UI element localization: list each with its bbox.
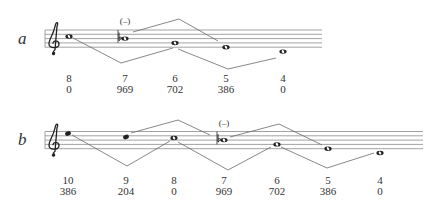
voice-leading-line [73,38,173,63]
note-7 [217,132,228,145]
filled-notehead [122,134,129,140]
system-label: a [18,30,27,47]
cents-label: 386 [60,186,77,197]
cents-label: 0 [171,186,177,197]
voice-leading-line [72,135,170,166]
note-8 [170,136,177,140]
flat-icon [218,134,220,142]
cents-label: 0 [280,84,286,95]
cents-label: 386 [320,186,337,197]
voice-leading-line [178,49,276,69]
note-7 [118,30,129,43]
note-6 [273,142,280,146]
cents-label: 0 [66,84,72,95]
cents-label: 969 [216,186,233,197]
note-5 [222,45,229,49]
cents-label: 0 [377,186,383,197]
note-6 [171,41,178,45]
system-label: b [18,131,27,148]
cents-label: 702 [269,186,286,197]
note-9 [122,134,129,140]
cents-label: 204 [118,186,135,197]
cents-label: 969 [117,84,134,95]
staff-system-a [45,19,322,69]
voice-leading-line [230,124,322,145]
flat-marker: (–) [120,17,131,26]
voice-leading-line [131,120,210,135]
note-5 [324,147,331,151]
note-4 [376,151,383,155]
flat-icon [119,33,121,41]
note-8 [65,34,72,38]
voice-leading-line [178,142,271,170]
staff-system-b [45,120,423,170]
note-4 [279,49,286,53]
cents-label: 702 [167,84,184,95]
cents-label: 386 [218,84,235,95]
flat-marker: (–) [219,119,230,128]
